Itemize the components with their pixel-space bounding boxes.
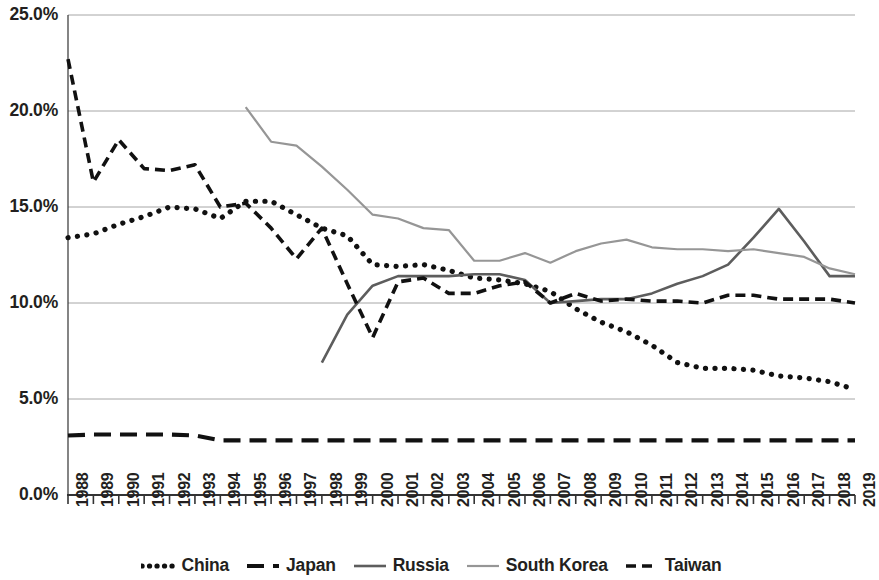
x-tick-label: 1993 bbox=[201, 473, 219, 507]
x-tick-label: 2015 bbox=[759, 473, 777, 507]
x-tick-label: 2009 bbox=[607, 473, 625, 507]
legend-swatch-solid-icon bbox=[353, 559, 387, 573]
legend-label: Russia bbox=[393, 555, 449, 576]
legend-swatch-dotted-icon bbox=[141, 559, 175, 573]
chart-legend: ChinaJapanRussiaSouth KoreaTaiwan bbox=[0, 551, 863, 580]
x-tick-label: 1991 bbox=[150, 473, 168, 507]
legend-item-china[interactable]: China bbox=[141, 555, 229, 576]
legend-label: Taiwan bbox=[665, 555, 722, 576]
x-tick-label: 2007 bbox=[556, 473, 574, 507]
y-tick-label: 10.0% bbox=[9, 292, 58, 313]
series-line-south-korea bbox=[246, 107, 855, 274]
y-tick-label: 25.0% bbox=[9, 4, 58, 25]
x-tick-label: 2005 bbox=[506, 473, 524, 507]
series-line-russia bbox=[322, 209, 855, 363]
x-tick-label: 2019 bbox=[861, 473, 879, 507]
x-tick-label: 2000 bbox=[379, 473, 397, 507]
x-tick-label: 2006 bbox=[531, 473, 549, 507]
x-tick-label: 2004 bbox=[480, 473, 498, 507]
legend-label: Japan bbox=[286, 555, 336, 576]
y-tick-label: 20.0% bbox=[9, 100, 58, 121]
x-tick-label: 2016 bbox=[785, 473, 803, 507]
x-tick-label: 1992 bbox=[176, 473, 194, 507]
series-line-taiwan bbox=[68, 59, 855, 337]
x-tick-label: 2011 bbox=[658, 473, 676, 507]
x-tick-label: 1998 bbox=[328, 473, 346, 507]
x-tick-label: 1996 bbox=[277, 473, 295, 507]
legend-swatch-dashed-short-icon bbox=[625, 559, 659, 573]
series-line-japan bbox=[68, 435, 855, 441]
x-tick-label: 2003 bbox=[455, 473, 473, 507]
legend-item-japan[interactable]: Japan bbox=[246, 555, 336, 576]
x-tick-label: 1994 bbox=[226, 473, 244, 507]
x-tick-label: 1999 bbox=[353, 473, 371, 507]
x-tick-label: 2012 bbox=[683, 473, 701, 507]
x-tick-label: 2013 bbox=[709, 473, 727, 507]
legend-swatch-solid-light-icon bbox=[466, 559, 500, 573]
x-tick-label: 2014 bbox=[734, 473, 752, 507]
legend-item-taiwan[interactable]: Taiwan bbox=[625, 555, 722, 576]
x-tick-label: 2010 bbox=[633, 473, 651, 507]
x-tick-label: 2008 bbox=[582, 473, 600, 507]
legend-label: South Korea bbox=[506, 555, 608, 576]
x-tick-label: 2002 bbox=[429, 473, 447, 507]
x-tick-label: 1988 bbox=[74, 473, 92, 507]
legend-item-russia[interactable]: Russia bbox=[353, 555, 449, 576]
y-tick-label: 15.0% bbox=[9, 196, 58, 217]
x-tick-label: 1989 bbox=[99, 473, 117, 507]
x-tick-label: 1997 bbox=[302, 473, 320, 507]
x-tick-label: 2001 bbox=[404, 473, 422, 507]
y-tick-label: 5.0% bbox=[19, 388, 58, 409]
legend-item-south-korea[interactable]: South Korea bbox=[466, 555, 608, 576]
x-tick-label: 2018 bbox=[836, 473, 854, 507]
y-tick-label: 0.0% bbox=[19, 484, 58, 505]
x-tick-label: 2017 bbox=[810, 473, 828, 507]
legend-swatch-dashed-long-icon bbox=[246, 559, 280, 573]
legend-label: China bbox=[181, 555, 229, 576]
x-tick-label: 1990 bbox=[125, 473, 143, 507]
x-tick-label: 1995 bbox=[252, 473, 270, 507]
